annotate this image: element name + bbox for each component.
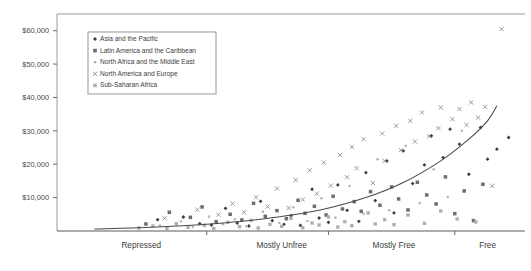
- marker-diamond: [364, 171, 368, 175]
- legend-item[interactable]: Asia and the Pacific: [93, 35, 159, 42]
- marker-square: [285, 217, 289, 221]
- marker-square-light: [343, 220, 346, 223]
- marker-cross: [420, 110, 424, 114]
- marker-diamond: [507, 136, 511, 140]
- marker-cross: [163, 216, 167, 220]
- marker-square: [453, 212, 457, 216]
- x-axis-ticks: [207, 231, 455, 235]
- marker-cross: [338, 153, 342, 157]
- marker-dot-light: [446, 196, 449, 199]
- marker-square-light: [93, 84, 97, 88]
- marker-square-light: [455, 217, 458, 220]
- marker-diamond: [336, 183, 340, 187]
- scatter-chart: $10,000$20,000$30,000$40,000$50,000$60,0…: [0, 0, 531, 271]
- marker-diamond: [357, 219, 361, 223]
- legend-item-label: North America and Europe: [100, 70, 178, 78]
- marker-square: [200, 205, 204, 209]
- marker-square: [275, 209, 279, 213]
- marker-square-light: [238, 225, 241, 228]
- y-tick-label: $10,000: [22, 193, 49, 202]
- marker-square: [425, 193, 429, 197]
- marker-square-light: [257, 226, 260, 229]
- legend-item[interactable]: Sub-Saharan Africa: [93, 81, 157, 88]
- marker-dot-light: [320, 197, 323, 200]
- marker-dot-light: [94, 61, 97, 64]
- marker-cross: [195, 208, 199, 212]
- marker-square: [168, 211, 172, 215]
- marker-cross: [371, 181, 375, 185]
- marker-dot-light: [278, 222, 281, 225]
- marker-dot-light: [432, 168, 435, 171]
- series-group: [159, 130, 463, 229]
- legend-item-label: Sub-Saharan Africa: [100, 81, 158, 88]
- legend-item-label: North Africa and the Middle East: [100, 58, 195, 65]
- marker-square-light: [350, 224, 353, 227]
- y-axis-labels: $10,000$20,000$30,000$40,000$50,000$60,0…: [22, 26, 49, 202]
- marker-diamond: [486, 157, 490, 161]
- marker-square: [341, 207, 345, 211]
- marker-dot-light: [376, 158, 379, 161]
- x-category-label: Repressed: [121, 241, 161, 250]
- marker-diamond: [259, 199, 263, 203]
- marker-square: [93, 49, 97, 53]
- marker-dot-light: [306, 220, 309, 223]
- marker-diamond: [345, 208, 349, 212]
- marker-square-light: [301, 226, 304, 229]
- trend-curve: [94, 106, 496, 229]
- marker-diamond: [310, 187, 314, 191]
- legend: Asia and the PacificLatin America and th…: [88, 32, 216, 94]
- marker-cross: [350, 145, 354, 149]
- marker-cross: [450, 117, 454, 121]
- legend-item[interactable]: North America and Europe: [93, 70, 178, 78]
- marker-square-light: [474, 220, 477, 223]
- marker-diamond: [495, 147, 499, 151]
- marker-square: [331, 195, 335, 199]
- marker-cross: [394, 124, 398, 128]
- marker-dot-light: [292, 206, 295, 209]
- marker-cross: [361, 137, 365, 141]
- marker-square: [416, 181, 420, 185]
- legend-item[interactable]: Latin America and the Caribbean: [93, 47, 196, 54]
- marker-diamond: [373, 199, 377, 203]
- marker-cross: [469, 100, 473, 104]
- marker-cross: [275, 187, 279, 191]
- marker-cross: [254, 195, 258, 199]
- legend-item-label: Asia and the Pacific: [100, 35, 159, 42]
- marker-dot-light: [388, 209, 391, 212]
- marker-cross: [230, 202, 234, 206]
- marker-diamond: [467, 172, 471, 176]
- y-axis-ticks: [53, 31, 57, 198]
- marker-square: [252, 202, 256, 206]
- marker-dot-light: [362, 213, 365, 216]
- marker-square-light: [310, 221, 313, 224]
- y-tick-label: $20,000: [22, 160, 49, 169]
- x-category-label: Mostly Unfree: [256, 241, 307, 250]
- series-group: [156, 126, 511, 228]
- marker-cross: [301, 198, 305, 202]
- legend-item[interactable]: North Africa and the Middle East: [94, 58, 195, 65]
- marker-cross: [266, 205, 270, 209]
- marker-diamond: [448, 127, 452, 131]
- x-category-label: Free: [479, 241, 496, 250]
- marker-cross: [464, 123, 468, 127]
- marker-dot-light: [461, 130, 464, 133]
- marker-square: [481, 183, 485, 187]
- marker-square-light: [383, 218, 386, 221]
- marker-square-light: [327, 215, 330, 218]
- marker-dot-light: [418, 202, 421, 205]
- marker-square: [189, 216, 193, 220]
- marker-cross: [380, 131, 384, 135]
- marker-square-light: [406, 213, 409, 216]
- marker-diamond: [156, 218, 160, 222]
- marker-square-light: [175, 222, 178, 225]
- marker-diamond: [181, 215, 185, 219]
- marker-dot-light: [208, 215, 211, 218]
- marker-square-light: [268, 223, 271, 226]
- marker-square: [264, 215, 268, 219]
- marker-dot-light: [234, 218, 237, 221]
- marker-cross: [490, 184, 494, 188]
- marker-square-light: [423, 222, 426, 225]
- marker-cross: [345, 175, 349, 179]
- marker-dot-light: [348, 185, 351, 188]
- marker-square-light: [212, 227, 215, 230]
